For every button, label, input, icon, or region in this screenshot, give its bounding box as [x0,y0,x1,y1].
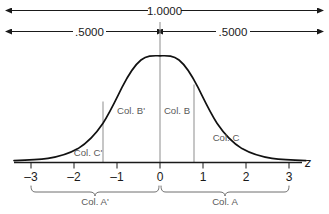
left-half-probability-label: .5000 [75,26,104,38]
col-a-prime-label: Col. Aʹ [81,196,109,207]
z-axis-label-neg1: –1 [110,170,124,184]
col-b-prime-label: Col. Bʹ [117,105,145,116]
z-axis-label-pos3: 3 [286,170,293,184]
right-bracket-path [161,186,289,196]
z-axis-label-zero: 0 [157,170,164,184]
z-axis-label-pos2: 2 [243,170,250,184]
right-half-probability-label: .5000 [219,26,248,38]
col-b-label: Col. B [164,105,190,116]
z-axis: –3 –2 –1 0 1 2 3 z [14,156,311,184]
col-c-label: Col. C [213,132,240,143]
normal-curve-figure: 1.0000 .5000 .5000 [0,0,329,214]
col-a-label: Col. A [212,196,238,207]
total-probability-label: 1.0000 [147,5,182,17]
left-bracket-path [31,186,159,196]
z-axis-label-neg2: –2 [67,170,81,184]
total-span-arrow: 1.0000 [12,5,317,17]
z-axis-name: z [304,156,311,170]
col-c-prime-label: Col. Cʹ [74,147,103,158]
z-axis-label-neg3: –3 [24,170,38,184]
right-half-span-arrow: .5000 [163,26,317,38]
right-bracket: Col. A [161,186,289,207]
z-axis-label-pos1: 1 [200,170,207,184]
left-bracket: Col. Aʹ [31,186,159,207]
left-half-span-arrow: .5000 [12,26,157,38]
figure-canvas: 1.0000 .5000 .5000 [0,0,329,214]
